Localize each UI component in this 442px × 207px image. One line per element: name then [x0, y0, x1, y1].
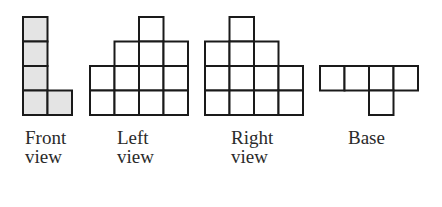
grid-cell [369, 91, 394, 116]
grid-cell [320, 66, 345, 91]
base-view-grid [0, 0, 442, 207]
grid-cell [369, 66, 394, 91]
grid-cell [394, 66, 419, 91]
base-view-label-line1: Base [348, 128, 385, 147]
base-view-label: Base [348, 128, 385, 147]
grid-cell [345, 66, 370, 91]
